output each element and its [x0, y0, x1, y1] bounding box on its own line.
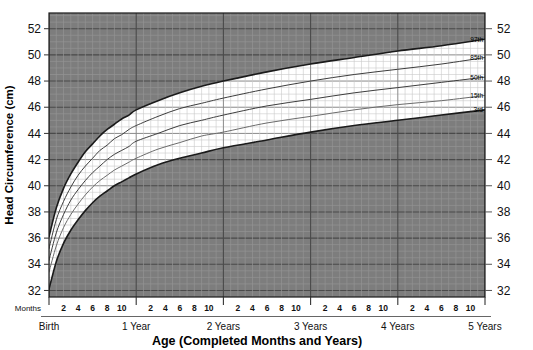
x-tick-label-month: 8: [192, 303, 197, 313]
x-tick-label-month: 6: [90, 303, 95, 313]
x-tick-label-month: 10: [291, 303, 301, 313]
y-tick-label-right: 46: [497, 100, 511, 114]
y-tick-label-left: 50: [28, 48, 42, 62]
x-tick-label-month: 4: [337, 303, 342, 313]
y-tick-label-left: 38: [28, 205, 42, 219]
y-tick-label-left: 34: [28, 257, 42, 271]
y-tick-label-left: 32: [28, 284, 42, 298]
x-tick-label-month: 10: [379, 303, 389, 313]
percentile-label-50th: 50th: [470, 74, 483, 81]
percentile-label-97th: 97th: [470, 36, 483, 43]
y-tick-label-right: 32: [497, 284, 511, 298]
y-tick-label-right: 40: [497, 179, 511, 193]
percentile-label-3rd: 3rd: [474, 106, 484, 113]
x-tick-label-month: 6: [352, 303, 357, 313]
x-tick-label-month: 4: [76, 303, 81, 313]
x-tick-label-month: 2: [410, 303, 415, 313]
y-tick-label-left: 48: [28, 74, 42, 88]
y-tick-label-left: 52: [28, 22, 42, 36]
x-axis-unit-label: Months: [15, 304, 41, 313]
y-tick-label-left: 36: [28, 231, 42, 245]
x-tick-label-month: 8: [454, 303, 459, 313]
x-year-label: 2 Years: [207, 321, 240, 332]
y-tick-label-right: 34: [497, 257, 511, 271]
x-tick-label-month: 4: [250, 303, 255, 313]
x-tick-label-month: 6: [439, 303, 444, 313]
y-tick-label-right: 42: [497, 153, 511, 167]
x-tick-label-month: 2: [236, 303, 241, 313]
y-tick-label-right: 44: [497, 127, 511, 141]
head-circumference-growth-chart: 97th85th50th15th3rd323436384042444648505…: [0, 0, 533, 350]
chart-canvas: 97th85th50th15th3rd323436384042444648505…: [0, 0, 533, 350]
x-tick-label-month: 8: [105, 303, 110, 313]
x-year-label: 4 Years: [381, 321, 414, 332]
x-tick-label-month: 2: [323, 303, 328, 313]
percentile-label-15th: 15th: [470, 92, 483, 99]
x-tick-label-month: 10: [117, 303, 127, 313]
x-tick-label-month: 8: [366, 303, 371, 313]
y-tick-label-left: 46: [28, 100, 42, 114]
y-tick-label-right: 48: [497, 74, 511, 88]
x-tick-label-month: 8: [279, 303, 284, 313]
y-tick-label-left: 44: [28, 127, 42, 141]
x-year-label: 3 Years: [294, 321, 327, 332]
x-year-label: 1 Year: [122, 321, 151, 332]
x-tick-label-month: 10: [204, 303, 214, 313]
y-tick-label-right: 52: [497, 22, 511, 36]
y-axis-title: Head Circumference (cm): [3, 85, 15, 224]
x-tick-label-month: 10: [466, 303, 476, 313]
percentile-label-85th: 85th: [470, 54, 483, 61]
x-tick-label-month: 4: [163, 303, 168, 313]
x-year-label: 5 Years: [468, 321, 501, 332]
x-tick-label-month: 2: [148, 303, 153, 313]
x-axis-title: Age (Completed Months and Years): [152, 334, 362, 348]
y-tick-label-right: 50: [497, 48, 511, 62]
x-tick-label-month: 4: [425, 303, 430, 313]
x-tick-label-month: 6: [177, 303, 182, 313]
x-year-label: Birth: [39, 321, 60, 332]
x-tick-label-month: 2: [61, 303, 66, 313]
x-tick-label-month: 6: [265, 303, 270, 313]
y-tick-label-right: 36: [497, 231, 511, 245]
y-tick-label-left: 40: [28, 179, 42, 193]
y-tick-label-right: 38: [497, 205, 511, 219]
y-tick-label-left: 42: [28, 153, 42, 167]
